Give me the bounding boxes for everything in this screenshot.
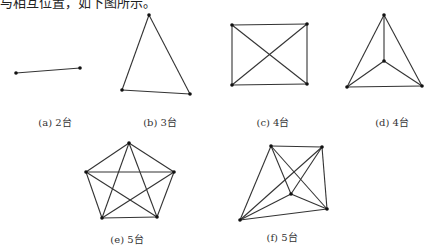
edge-line bbox=[86, 143, 129, 172]
edge-line bbox=[271, 146, 291, 194]
figure-label-b: (b) 3台 bbox=[143, 114, 177, 129]
node-dot bbox=[420, 84, 424, 88]
edge-line bbox=[291, 194, 327, 209]
node-dot bbox=[382, 13, 386, 17]
node-dot bbox=[120, 88, 124, 92]
figure-label-f: (f) 5台 bbox=[266, 229, 297, 244]
edge-line bbox=[102, 172, 174, 218]
node-dot bbox=[155, 215, 159, 219]
figure-label-c: (c) 4台 bbox=[257, 114, 290, 129]
node-dot bbox=[305, 22, 309, 26]
figure-label-d: (d) 4台 bbox=[375, 114, 409, 129]
node-dot bbox=[147, 13, 151, 17]
node-dot bbox=[269, 144, 273, 148]
edge-line bbox=[86, 172, 157, 217]
node-dot bbox=[325, 207, 329, 211]
figure-f bbox=[238, 144, 329, 222]
node-dot bbox=[78, 66, 82, 70]
figure-d bbox=[345, 13, 424, 89]
edge-line bbox=[347, 86, 422, 87]
figure-label-a: (a) 2台 bbox=[38, 114, 71, 129]
edge-line bbox=[347, 61, 384, 87]
node-dot bbox=[127, 141, 131, 145]
edge-line bbox=[240, 209, 327, 220]
edge-line bbox=[157, 172, 174, 217]
figure-a bbox=[14, 66, 82, 75]
edge-line bbox=[384, 61, 422, 86]
node-dot bbox=[14, 71, 18, 75]
node-dot bbox=[345, 85, 349, 89]
node-dot bbox=[84, 170, 88, 174]
figure-c bbox=[230, 22, 309, 87]
node-dot bbox=[172, 170, 176, 174]
edge-line bbox=[122, 90, 190, 94]
node-dot bbox=[305, 82, 309, 86]
node-dot bbox=[320, 145, 324, 149]
figure-b bbox=[120, 13, 192, 96]
node-dot bbox=[100, 216, 104, 220]
figure-e bbox=[84, 141, 176, 220]
edge-line bbox=[384, 15, 422, 86]
node-dot bbox=[289, 192, 293, 196]
edge-line bbox=[240, 146, 271, 220]
edge-line bbox=[232, 24, 307, 85]
edge-line bbox=[129, 143, 174, 172]
node-dot bbox=[238, 218, 242, 222]
edge-line bbox=[149, 15, 190, 94]
figure-label-e: (e) 5台 bbox=[110, 231, 143, 246]
edge-line bbox=[86, 172, 102, 218]
node-dot bbox=[230, 83, 234, 87]
edge-line bbox=[122, 15, 149, 90]
edge-line bbox=[232, 84, 307, 85]
edge-line bbox=[16, 68, 80, 73]
edge-line bbox=[271, 146, 322, 147]
edge-line bbox=[322, 147, 327, 209]
edge-line bbox=[102, 143, 129, 218]
edge-line bbox=[347, 15, 384, 87]
edge-line bbox=[129, 143, 157, 217]
edge-line bbox=[232, 24, 307, 25]
node-dot bbox=[230, 23, 234, 27]
node-dot bbox=[382, 59, 386, 63]
edge-line bbox=[102, 217, 157, 218]
node-dot bbox=[188, 92, 192, 96]
